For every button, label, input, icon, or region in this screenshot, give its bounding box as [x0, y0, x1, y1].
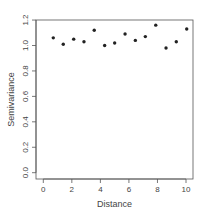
- data-point: [103, 44, 106, 47]
- semivariogram-chart: 0.00.20.40.60.81.01.2 0246810 Distance S…: [0, 0, 203, 218]
- data-point: [82, 40, 85, 43]
- x-tick-label: 4: [98, 185, 103, 194]
- x-axis-title: Distance: [97, 199, 132, 209]
- x-tick-label: 8: [155, 185, 160, 194]
- x-tick-label: 2: [70, 185, 75, 194]
- x-tick-label: 6: [127, 185, 132, 194]
- data-point: [154, 23, 157, 26]
- data-points: [52, 23, 189, 49]
- y-axis-title: Semivariance: [6, 72, 16, 127]
- y-tick-label: 1.0: [21, 39, 30, 51]
- data-point: [164, 46, 167, 49]
- data-point: [134, 39, 137, 42]
- y-tick-label: 0.8: [21, 65, 30, 77]
- data-point: [175, 40, 178, 43]
- x-tick-label: 10: [182, 185, 191, 194]
- data-point: [185, 27, 188, 30]
- y-tick-label: 0.0: [21, 167, 30, 179]
- data-point: [123, 32, 126, 35]
- y-tick-label: 0.2: [21, 141, 30, 153]
- y-tick-label: 0.6: [21, 90, 30, 102]
- data-point: [52, 36, 55, 39]
- data-point: [93, 29, 96, 32]
- data-point: [113, 41, 116, 44]
- data-point: [144, 35, 147, 38]
- data-point: [62, 43, 65, 46]
- y-axis: 0.00.20.40.60.81.01.2: [21, 14, 36, 178]
- x-tick-label: 0: [41, 185, 46, 194]
- y-tick-label: 1.2: [21, 14, 30, 26]
- y-tick-label: 0.4: [21, 116, 30, 128]
- data-point: [72, 37, 75, 40]
- x-axis: 0246810: [41, 179, 191, 194]
